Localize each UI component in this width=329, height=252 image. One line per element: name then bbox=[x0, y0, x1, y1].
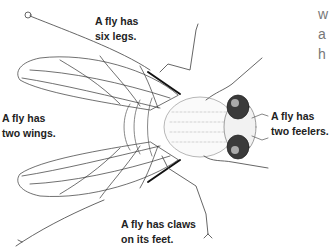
cropped-text-line3: h bbox=[318, 44, 328, 64]
label-feelers: A fly has two feelers. bbox=[271, 109, 329, 139]
label-feelers-line1: A fly has bbox=[271, 109, 329, 124]
cropped-text-line2: a bbox=[318, 24, 328, 44]
label-feelers-line2: two feelers. bbox=[271, 124, 329, 139]
label-claws-line2: on its feet. bbox=[121, 232, 196, 247]
cropped-text: w a h bbox=[318, 4, 328, 64]
upper-wing bbox=[18, 56, 180, 110]
label-legs: A fly has six legs. bbox=[95, 14, 138, 44]
label-claws: A fly has claws on its feet. bbox=[121, 217, 196, 247]
label-wings-line2: two wings. bbox=[2, 126, 56, 141]
label-legs-line2: six legs. bbox=[95, 29, 138, 44]
fly-diagram: A fly has six legs. A fly has two wings.… bbox=[0, 0, 329, 252]
label-claws-line1: A fly has claws bbox=[121, 217, 196, 232]
label-wings-line1: A fly has bbox=[2, 111, 56, 126]
lower-wing bbox=[18, 142, 180, 198]
label-legs-line1: A fly has bbox=[95, 14, 138, 29]
label-wings: A fly has two wings. bbox=[2, 111, 56, 141]
head bbox=[224, 95, 256, 159]
cropped-text-line1: w bbox=[318, 4, 328, 24]
